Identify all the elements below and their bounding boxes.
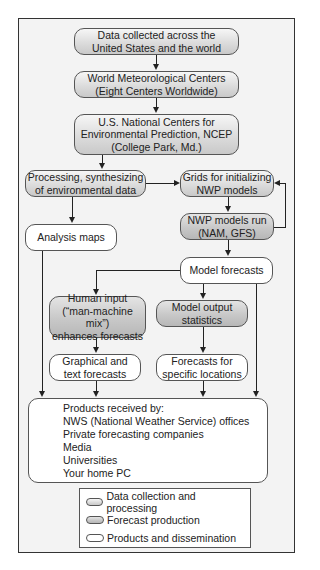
data-collection-swatch-icon xyxy=(86,498,103,506)
node-text: Data collected across the xyxy=(98,29,216,42)
node-text: NWP models xyxy=(196,184,257,197)
node-text: of environmental data xyxy=(35,184,136,197)
node-grids: Grids for initializing NWP models xyxy=(180,170,274,197)
node-processing: Processing, synthesizing of environmenta… xyxy=(25,170,146,197)
forecast-production-swatch-icon xyxy=(86,516,104,524)
node-text: Analysis maps xyxy=(37,231,105,244)
products-recipient: Your home PC xyxy=(63,467,131,480)
arrow-down-icon xyxy=(200,347,206,353)
arrow-down-icon xyxy=(253,391,259,397)
legend: Data collection and processing Forecast … xyxy=(79,488,251,548)
products-heading: Products received by: xyxy=(63,402,164,415)
products-swatch-icon xyxy=(86,534,104,542)
node-text: statistics xyxy=(182,314,222,327)
node-text: World Meteorological Centers xyxy=(87,72,225,85)
feedback-connector xyxy=(274,227,285,228)
node-text: Model forecasts xyxy=(189,264,263,277)
legend-label: Products and dissemination xyxy=(107,532,236,544)
products-recipient: Media xyxy=(63,441,92,454)
arrow-down-icon xyxy=(225,250,231,256)
node-text: Grids for initializing xyxy=(183,171,272,184)
node-nwp-models-run: NWP models run (NAM, GFS) xyxy=(180,213,274,240)
node-text: Processing, synthesizing xyxy=(28,171,144,184)
products-recipient: Universities xyxy=(63,454,117,467)
legend-item-products: Products and dissemination xyxy=(86,529,244,547)
legend-label: Forecast production xyxy=(107,514,200,526)
node-text: specific locations xyxy=(162,368,241,381)
node-model-output-statistics: Model output statistics xyxy=(156,300,248,327)
feedback-connector xyxy=(280,183,286,184)
node-human-input: Human input (“man-machine mix”) enhances… xyxy=(49,296,146,338)
node-text: (“man-machine mix”) xyxy=(50,305,145,330)
arrow-down-icon xyxy=(200,391,206,397)
connector xyxy=(146,183,174,184)
arrow-down-icon xyxy=(39,391,45,397)
node-text: Graphical and xyxy=(62,355,127,368)
arrow-down-icon xyxy=(225,206,231,212)
node-text: Human input xyxy=(68,292,128,305)
node-analysis-maps: Analysis maps xyxy=(25,224,117,251)
node-ncep: U.S. National Centers for Environmental … xyxy=(74,114,239,155)
node-text: U.S. National Centers for xyxy=(98,116,215,129)
arrow-down-icon xyxy=(93,347,99,353)
node-products-received: Products received by: NWS (National Weat… xyxy=(28,398,268,483)
connector xyxy=(203,327,204,348)
node-specific-location-forecasts: Forecasts for specific locations xyxy=(156,354,248,381)
node-text: Forecasts for xyxy=(171,355,232,368)
node-text: enhances forecasts xyxy=(52,330,143,343)
arrow-down-icon xyxy=(69,217,75,223)
node-text: (Eight Centers Worldwide) xyxy=(95,85,217,98)
arrow-down-icon xyxy=(93,391,99,397)
legend-item-data-collection: Data collection and processing xyxy=(86,493,244,511)
legend-label: Data collection and processing xyxy=(106,490,244,514)
arrow-down-icon xyxy=(99,163,105,169)
node-text: (College Park, Md.) xyxy=(111,141,201,154)
connector xyxy=(72,196,73,218)
arrow-down-icon xyxy=(200,293,206,299)
node-text: Model output xyxy=(172,301,233,314)
connector xyxy=(96,270,180,271)
node-text: (NAM, GFS) xyxy=(198,227,256,240)
node-text: United States and the world xyxy=(92,42,221,55)
node-graphical-text-forecasts: Graphical and text forecasts xyxy=(49,354,141,381)
arrow-left-icon xyxy=(274,180,280,186)
products-recipient: NWS (National Weather Service) offices xyxy=(63,415,249,428)
node-model-forecasts: Model forecasts xyxy=(180,257,273,284)
arrow-down-icon xyxy=(153,64,159,70)
node-text: NWP models run xyxy=(187,214,266,227)
feedback-connector xyxy=(285,183,286,228)
node-text: text forecasts xyxy=(64,368,126,381)
connector xyxy=(42,250,43,392)
node-data-collected: Data collected across the United States … xyxy=(74,28,239,55)
node-text: Environmental Prediction, NCEP xyxy=(81,128,233,141)
arrow-down-icon xyxy=(153,107,159,113)
node-world-meteorological-centers: World Meteorological Centers (Eight Cent… xyxy=(74,71,239,98)
products-recipient: Private forecasting companies xyxy=(63,428,204,441)
connector xyxy=(96,270,97,291)
connector xyxy=(256,283,257,392)
